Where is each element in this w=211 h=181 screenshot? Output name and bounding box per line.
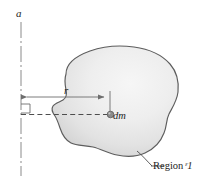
axis-label: a xyxy=(16,8,22,19)
right-angle-marker xyxy=(21,104,30,113)
figure-canvas xyxy=(0,0,211,181)
region-label: Regionᵋ1 xyxy=(153,161,193,172)
mass-element-label: dm xyxy=(113,111,126,122)
mass-element-highlight xyxy=(108,112,110,114)
region-label-prefix: Region xyxy=(153,160,183,171)
moment-of-inertia-figure: a r dm Regionᵋ1 xyxy=(0,0,211,181)
region-body-shape xyxy=(52,46,178,156)
radius-label: r xyxy=(64,85,68,96)
region-label-symbol: ᵋ1 xyxy=(183,160,192,171)
